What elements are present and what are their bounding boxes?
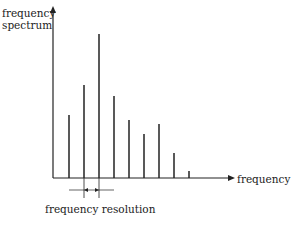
spectrum-diagram [0, 0, 291, 226]
spectrum-lines [69, 34, 189, 178]
resolution-arrow-left-icon [84, 188, 88, 192]
resolution-arrow-right-icon [95, 188, 99, 192]
y-axis-arrow-icon [50, 6, 56, 13]
x-axis-arrow-icon [228, 175, 235, 181]
